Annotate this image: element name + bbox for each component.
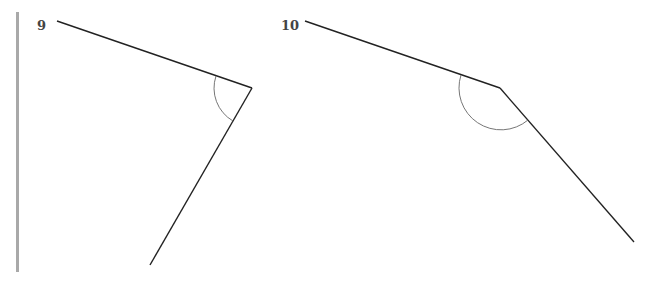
angle-figure-9 xyxy=(57,21,252,265)
angle-9-arc xyxy=(214,76,233,121)
angle-10-ray-2 xyxy=(500,88,634,242)
angle-diagrams xyxy=(0,0,668,281)
angle-figure-10 xyxy=(305,21,634,242)
angle-9-ray-1 xyxy=(57,21,252,88)
angle-9-ray-2 xyxy=(150,88,252,265)
angle-10-ray-1 xyxy=(305,21,500,88)
angle-10-arc xyxy=(459,75,528,130)
